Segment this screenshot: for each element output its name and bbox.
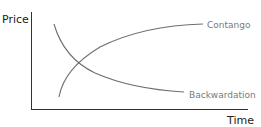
backwardation-curve: [54, 24, 184, 92]
futures-curve-diagram: Price Time Contango Backwardation: [0, 0, 261, 127]
backwardation-label: Backwardation: [189, 90, 256, 100]
x-axis-label: Time: [226, 114, 254, 127]
contango-curve: [59, 24, 203, 97]
y-axis-label: Price: [2, 13, 29, 26]
contango-label: Contango: [207, 20, 251, 30]
